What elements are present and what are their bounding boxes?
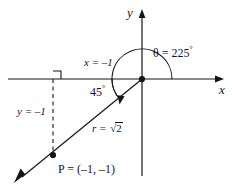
radical-group: √2	[109, 122, 123, 134]
radicand: 2	[115, 122, 123, 134]
origin-point	[139, 76, 145, 82]
reference-angle-text: 45	[90, 85, 102, 99]
x-component-label: x = –1	[84, 57, 113, 68]
theta-label-text: θ = 225	[153, 46, 190, 60]
y-axis-label: y	[127, 6, 133, 19]
point-p-marker	[50, 152, 56, 158]
right-angle-marker	[53, 71, 61, 79]
y-component-label: y = –1	[17, 106, 46, 117]
x-axis-label: x	[219, 83, 225, 96]
reference-angle-degree-symbol: °	[102, 84, 105, 93]
diagram-canvas	[0, 0, 234, 185]
y-axis-arrowhead	[139, 9, 146, 18]
theta-degree-symbol: °	[190, 45, 193, 54]
radius-prefix: r =	[92, 122, 109, 134]
x-axis	[8, 76, 224, 83]
reference-angle-label: 45°	[90, 85, 105, 98]
polar-coordinate-diagram: y x θ = 225° 45° x = –1 y = –1 r = √2 P …	[0, 0, 234, 185]
theta-arc-arrowhead	[118, 95, 125, 104]
theta-label: θ = 225°	[153, 46, 193, 59]
point-p-label: P = (–1, –1)	[58, 163, 115, 175]
radius-label: r = √2	[92, 122, 123, 134]
y-axis	[139, 9, 146, 176]
